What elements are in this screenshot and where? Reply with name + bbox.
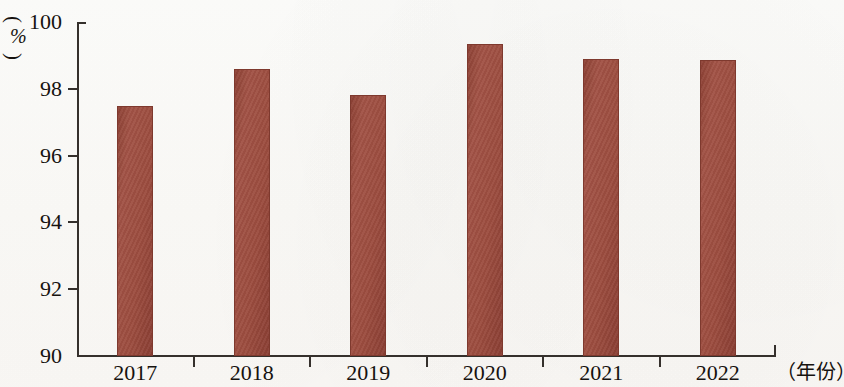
bar-2017 (117, 106, 153, 357)
y-axis-tick-label: 96 (18, 145, 62, 167)
y-axis-tick-label: 98 (18, 78, 62, 100)
y-axis-tick (68, 221, 78, 223)
x-axis-tick (426, 357, 428, 367)
y-axis-tick-label: 94 (18, 211, 62, 233)
x-axis-label-2017: 2017 (80, 362, 190, 384)
x-axis-tick (309, 357, 311, 367)
y-unit-close-paren: ) (3, 53, 24, 60)
bar-2020 (467, 44, 503, 356)
y-axis-tick (68, 288, 78, 290)
x-axis-tick (193, 357, 195, 367)
y-axis-tick-label: 90 (18, 345, 62, 367)
x-axis-end-cap (774, 345, 776, 357)
x-axis-label-2018: 2018 (197, 362, 307, 384)
bar-chart: ( % ) 9092949698100 20172018201920202021… (0, 0, 844, 387)
bar-2021 (583, 59, 619, 356)
x-axis-tick (542, 357, 544, 367)
bar-2019 (350, 95, 386, 356)
y-axis-tick (68, 155, 78, 157)
x-axis-label-2020: 2020 (430, 362, 540, 384)
x-axis-tick (659, 357, 661, 367)
x-axis-label-2022: 2022 (663, 362, 773, 384)
y-axis-tick (68, 88, 78, 90)
x-axis-title: （年份） (776, 362, 844, 382)
y-axis-line (77, 22, 79, 357)
y-axis-tick-label: 92 (18, 278, 62, 300)
y-axis-tick-label: 100 (18, 11, 62, 33)
y-axis-top-cap (77, 22, 86, 24)
bar-2018 (234, 69, 270, 356)
bar-2022 (700, 60, 736, 356)
x-axis-label-2019: 2019 (313, 362, 423, 384)
x-axis-label-2021: 2021 (546, 362, 656, 384)
